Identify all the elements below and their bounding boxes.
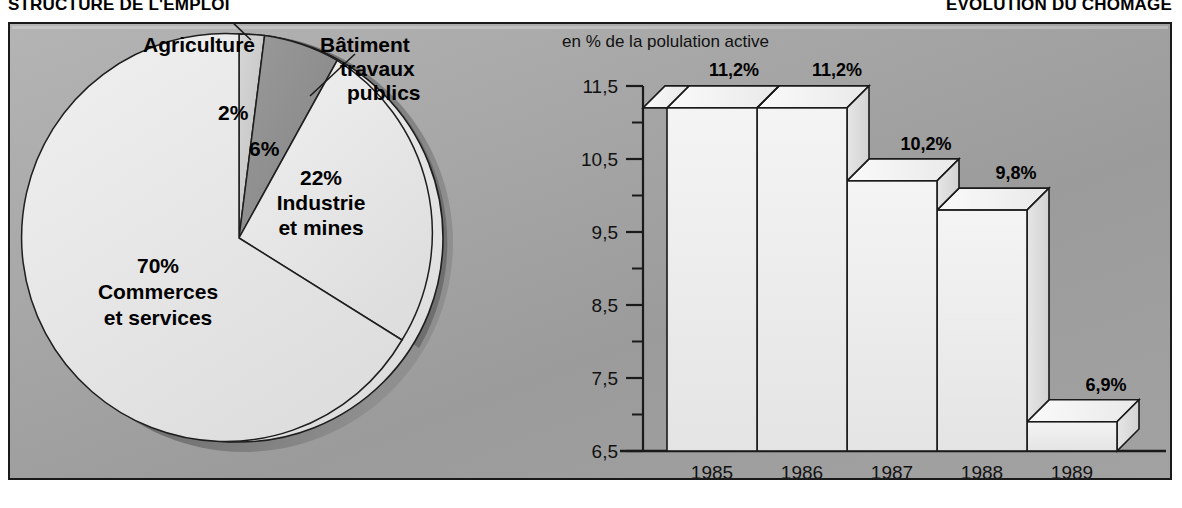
y-tick-label-0: 11,5 xyxy=(582,76,618,97)
x-tick-label-1987: 1987 xyxy=(871,462,913,480)
pie-value-btp: 6% xyxy=(249,137,280,160)
bar-1988 xyxy=(937,188,1049,451)
pie-value-industrie: 22% xyxy=(300,166,342,189)
pie-label-btp-line2: travaux xyxy=(340,57,415,80)
bar-1989 xyxy=(1027,400,1139,451)
bar-value-1987: 10,2% xyxy=(900,134,951,154)
x-tick-label-1985: 1985 xyxy=(691,462,733,480)
pie-label-commerces-line1: Commerces xyxy=(98,280,218,303)
y-tick-label-3: 8,5 xyxy=(592,295,618,316)
y-tick-label-5: 6,5 xyxy=(592,441,618,462)
page-title-right: EVOLUTION DU CHOMAGE xyxy=(946,0,1172,15)
y-axis-minor-ticks xyxy=(632,123,643,415)
bar-value-1988: 9,8% xyxy=(995,163,1036,183)
y-tick-label-4: 7,5 xyxy=(592,368,618,389)
bar-value-1985: 11,2% xyxy=(709,60,759,80)
pie-label-agriculture: Agriculture xyxy=(143,33,255,56)
pie-label-btp-line3: publics xyxy=(347,81,421,104)
pie-label-btp-line1: Bâtiment xyxy=(320,33,410,56)
infographic-page: STRUCTURE DE L'EMPLOI EVOLUTION DU CHOMA… xyxy=(0,0,1182,508)
bar-chart: en % de la polulation active xyxy=(554,24,1172,480)
pie-chart: Agriculture Bâtiment travaux publics 2% … xyxy=(10,24,570,480)
x-tick-label-1986: 1986 xyxy=(781,462,823,480)
y-tick-label-1: 10,5 xyxy=(581,149,618,170)
x-tick-label-1989: 1989 xyxy=(1051,462,1093,480)
pie-label-industrie-line2: et mines xyxy=(278,216,363,239)
chart-panel: Agriculture Bâtiment travaux publics 2% … xyxy=(8,22,1172,480)
bar-value-1986: 11,2% xyxy=(812,60,862,80)
page-title-left: STRUCTURE DE L'EMPLOI xyxy=(8,0,230,15)
bar-value-1989: 6,9% xyxy=(1085,375,1126,395)
y-tick-label-2: 9,5 xyxy=(592,222,618,243)
bar-axis-note: en % de la polulation active xyxy=(562,32,769,51)
pie-label-commerces-line2: et services xyxy=(104,306,213,329)
pie-value-agriculture: 2% xyxy=(218,101,249,124)
pie-label-industrie-line1: Industrie xyxy=(277,191,366,214)
x-tick-label-1988: 1988 xyxy=(961,462,1003,480)
pie-value-commerces: 70% xyxy=(137,254,179,277)
